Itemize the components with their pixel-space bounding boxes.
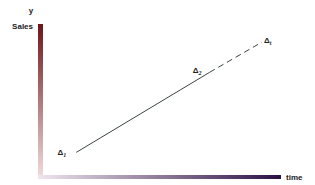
sales-time-diagram: y Sales time Δ1Δ2Δt	[0, 0, 315, 185]
x-axis	[38, 175, 281, 179]
point-label-delta-1: Δ1	[58, 148, 67, 158]
y-axis	[38, 24, 43, 179]
y-axis-letter: y	[29, 6, 34, 15]
chart-marks: Δ1Δ2Δt	[58, 36, 272, 158]
point-label-subscript: 1	[63, 152, 66, 158]
point-label-delta-t: Δt	[264, 36, 272, 46]
point-label-delta-2: Δ2	[193, 66, 202, 76]
series-projected-segment	[210, 42, 262, 72]
point-label-subscript: t	[270, 40, 272, 46]
x-axis-label: time	[286, 173, 303, 182]
y-axis-label: Sales	[12, 22, 33, 31]
series-actual-segment	[76, 72, 209, 152]
point-label-subscript: 2	[198, 70, 202, 76]
